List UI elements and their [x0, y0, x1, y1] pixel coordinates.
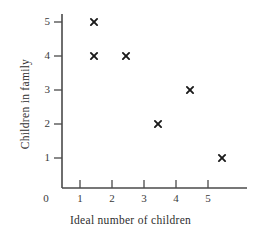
y-axis-title: Children in family — [19, 34, 31, 174]
data-point-marker — [187, 87, 193, 93]
data-point-marker — [91, 53, 97, 59]
x-tick-label-4: 4 — [168, 193, 184, 204]
y-tick-label-4: 4 — [36, 50, 50, 61]
x-tick-label-2: 2 — [104, 193, 120, 204]
y-tick-label-1: 1 — [36, 152, 50, 163]
data-point-marker — [219, 155, 225, 161]
data-point-group — [91, 19, 225, 161]
data-point-marker — [91, 19, 97, 25]
x-tick-label-3: 3 — [136, 193, 152, 204]
data-point-marker — [123, 53, 129, 59]
y-tick-label-3: 3 — [36, 84, 50, 95]
y-tick-label-2: 2 — [36, 118, 50, 129]
x-tick-label-1: 1 — [72, 193, 88, 204]
y-tick-label-5: 5 — [36, 16, 50, 27]
x-tick-label-0: 0 — [38, 193, 54, 204]
x-axis-title: Ideal number of children — [0, 214, 261, 226]
data-point-marker — [155, 121, 161, 127]
x-tick-label-5: 5 — [200, 193, 216, 204]
scatter-plot-figure: 0 1 2 3 4 5 1 2 3 4 5 Ideal number of ch… — [0, 0, 261, 240]
